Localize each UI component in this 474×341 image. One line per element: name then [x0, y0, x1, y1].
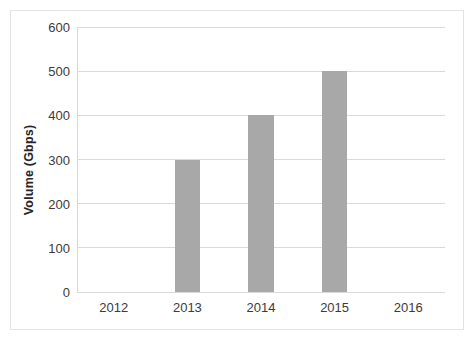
bar	[175, 160, 200, 293]
x-axis-tick-label: 2012	[99, 301, 128, 314]
x-axis-tick-label: 2016	[394, 301, 423, 314]
y-axis-tick-label: 100	[48, 241, 70, 254]
bar	[322, 71, 347, 292]
plot-area: 0100200300400500600 20122013201420152016	[77, 27, 445, 292]
y-axis-tick-label: 400	[48, 109, 70, 122]
x-axis-tick-label: 2013	[173, 301, 202, 314]
y-axis-title: Volume (Gbps)	[22, 125, 36, 216]
y-axis-tick-label: 500	[48, 65, 70, 78]
x-axis-tick-label: 2015	[320, 301, 349, 314]
y-axis-tick-label: 600	[48, 21, 70, 34]
gridline	[77, 27, 445, 28]
gridline	[77, 71, 445, 72]
bar	[248, 115, 273, 292]
y-axis-tick-label: 200	[48, 197, 70, 210]
x-axis-tick-label: 2014	[247, 301, 276, 314]
chart-container: Volume (Gbps) 0100200300400500600 201220…	[10, 10, 464, 330]
y-axis-tick-label: 300	[48, 153, 70, 166]
y-axis-tick-label: 0	[63, 286, 70, 299]
